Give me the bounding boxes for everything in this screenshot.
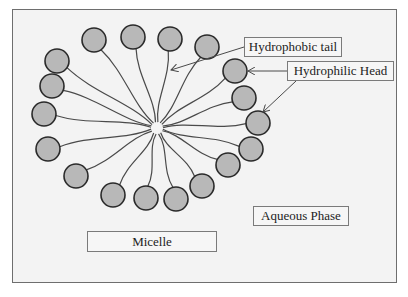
tail-chain xyxy=(163,129,239,146)
tail-chain xyxy=(162,131,217,160)
hydrophilic-head-circle xyxy=(239,137,263,161)
hydrophilic-head-circle xyxy=(134,186,158,210)
hydrophilic-head-arrow-2 xyxy=(263,81,296,112)
hydrophilic-head-circle xyxy=(101,183,125,207)
tail-chain xyxy=(136,49,155,123)
hydrophilic-head-circle xyxy=(82,28,106,52)
hydrophilic-head-circle xyxy=(246,111,270,135)
hydrophilic-head-label: Hydrophilic Head xyxy=(287,61,394,81)
tail-chain xyxy=(148,134,156,186)
tail-chain xyxy=(162,78,225,124)
hydrophilic-head-circle xyxy=(190,174,214,198)
hydrophilic-head-circle xyxy=(45,49,69,73)
hydrophilic-head-circle xyxy=(36,137,60,161)
hydrophilic-head-circle xyxy=(64,164,88,188)
tail-chain xyxy=(67,68,152,125)
tail-chain xyxy=(163,124,246,128)
hydrophilic-head-circle xyxy=(164,187,188,211)
tail-chain xyxy=(120,133,154,185)
hydrophilic-head-circle xyxy=(158,27,182,51)
hydrophilic-head-circle xyxy=(121,25,145,49)
hydrophobic-tail-label: Hydrophobic tail xyxy=(244,37,342,57)
hydrophilic-head-circle xyxy=(32,102,56,126)
hydrophilic-head-circle xyxy=(223,59,247,83)
hydrophilic-head-circle xyxy=(216,153,240,177)
hydrophilic-head-circle xyxy=(195,35,219,59)
hydrophilic-head-circle xyxy=(40,74,64,98)
micelle-label: Micelle xyxy=(87,231,217,252)
aqueous-phase-label: Aqueous Phase xyxy=(253,206,349,226)
tail-chain xyxy=(158,51,169,122)
tail-chain xyxy=(161,133,195,177)
micelle-diagram xyxy=(0,0,408,297)
hydrophilic-head-circle xyxy=(232,86,256,110)
